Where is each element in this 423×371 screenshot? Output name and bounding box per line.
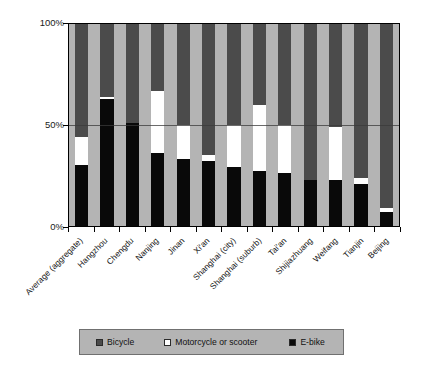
segment-bicycle: [278, 24, 291, 125]
segment-motorcycle: [151, 91, 164, 154]
segment-bicycle: [100, 24, 113, 97]
y-tick-label-0: 0%: [2, 222, 64, 232]
bar-shanghai-suburb[interactable]: [253, 24, 266, 226]
bar-shijiazhuang[interactable]: [304, 24, 317, 226]
stacked-bar-chart: 100% 50% 0% Average (aggregate)HangzhouC…: [0, 0, 423, 371]
legend-label-ebike: E-bike: [300, 337, 324, 347]
bar-xi-an[interactable]: [202, 24, 215, 226]
x-tick-mark: [298, 227, 299, 232]
segment-motorcycle: [253, 105, 266, 172]
bar-tai-an[interactable]: [278, 24, 291, 226]
legend-item-motorcycle: Motorcycle or scooter: [164, 337, 257, 347]
bar-slot: [348, 24, 373, 226]
segment-motorcycle: [75, 137, 88, 165]
bar-slot: [69, 24, 94, 226]
x-tick-mark: [323, 227, 324, 232]
bar-hangzhou[interactable]: [100, 24, 113, 226]
segment-motorcycle: [329, 127, 342, 180]
bar-shanghai-city[interactable]: [227, 24, 240, 226]
legend-item-bicycle: Bicycle: [96, 337, 134, 347]
x-axis-ticks: [68, 227, 400, 232]
bar-slot: [145, 24, 170, 226]
bar-slot: [323, 24, 348, 226]
segment-bicycle: [380, 24, 393, 208]
bar-slot: [221, 24, 246, 226]
bar-slot: [94, 24, 119, 226]
bar-slot: [120, 24, 145, 226]
x-tick-mark: [374, 227, 375, 232]
bar-tianjin[interactable]: [354, 24, 367, 226]
legend-swatch-ebike-icon: [289, 339, 296, 346]
segment-motorcycle: [227, 125, 240, 167]
segment-bicycle: [151, 24, 164, 91]
bar-slot: [196, 24, 221, 226]
bar-slot: [272, 24, 297, 226]
segment-bicycle: [304, 24, 317, 180]
segment-bicycle: [126, 24, 139, 123]
legend-swatch-bicycle-icon: [96, 339, 103, 346]
x-tick-mark: [196, 227, 197, 232]
plot-area: [68, 23, 400, 227]
bar-slot: [247, 24, 272, 226]
segment-ebike: [329, 180, 342, 226]
bar-jinan[interactable]: [177, 24, 190, 226]
bar-slot: [171, 24, 196, 226]
segment-motorcycle: [177, 125, 190, 159]
bar-weifang[interactable]: [329, 24, 342, 226]
segment-ebike: [100, 99, 113, 226]
segment-ebike: [151, 153, 164, 226]
segment-ebike: [202, 161, 215, 226]
bar-beijing[interactable]: [380, 24, 393, 226]
segment-bicycle: [202, 24, 215, 155]
segment-ebike: [253, 171, 266, 226]
segment-ebike: [304, 180, 317, 226]
x-tick-mark: [349, 227, 350, 232]
x-tick-mark: [272, 227, 273, 232]
bars-layer: [69, 24, 399, 226]
segment-bicycle: [354, 24, 367, 178]
segment-ebike: [75, 165, 88, 226]
segment-bicycle: [75, 24, 88, 137]
segment-ebike: [177, 159, 190, 226]
y-tick-label-50: 50%: [2, 120, 64, 130]
segment-bicycle: [329, 24, 342, 127]
segment-ebike: [126, 123, 139, 226]
bar-average-aggregate[interactable]: [75, 24, 88, 226]
x-tick-mark: [119, 227, 120, 232]
segment-bicycle: [177, 24, 190, 125]
segment-ebike: [380, 212, 393, 226]
x-tick-mark: [94, 227, 95, 232]
bar-slot: [298, 24, 323, 226]
bar-chengdu[interactable]: [126, 24, 139, 226]
bar-slot: [374, 24, 399, 226]
segment-bicycle: [227, 24, 240, 125]
segment-ebike: [227, 167, 240, 226]
legend-item-ebike: E-bike: [289, 337, 324, 347]
segment-bicycle: [253, 24, 266, 105]
chart-legend: Bicycle Motorcycle or scooter E-bike: [79, 329, 344, 355]
legend-label-bicycle: Bicycle: [107, 337, 134, 347]
segment-ebike: [278, 173, 291, 226]
legend-label-motorcycle: Motorcycle or scooter: [175, 337, 257, 347]
x-tick-mark: [221, 227, 222, 232]
x-tick-mark: [170, 227, 171, 232]
x-tick-mark: [145, 227, 146, 232]
segment-ebike: [354, 184, 367, 226]
y-tick-label-100: 100%: [2, 18, 64, 28]
legend-swatch-motorcycle-icon: [164, 339, 171, 346]
segment-motorcycle: [278, 125, 291, 173]
x-tick-mark: [400, 227, 401, 232]
bar-nanjing[interactable]: [151, 24, 164, 226]
x-tick-mark: [247, 227, 248, 232]
x-tick-mark: [68, 227, 69, 232]
